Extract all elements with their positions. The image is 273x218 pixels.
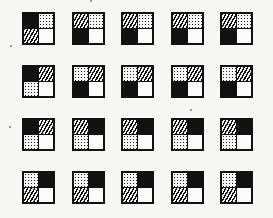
white-quadrant bbox=[237, 29, 251, 43]
dotted-quadrant bbox=[237, 14, 251, 28]
white-quadrant bbox=[237, 135, 251, 149]
dotted-quadrant bbox=[123, 67, 137, 81]
hatched-quadrant bbox=[123, 120, 137, 134]
black-quadrant bbox=[138, 120, 152, 134]
pattern-tile-r1-c3 bbox=[121, 12, 154, 45]
hatched-quadrant bbox=[222, 188, 236, 202]
pattern-grid bbox=[0, 0, 273, 218]
dotted-quadrant bbox=[222, 67, 236, 81]
black-quadrant bbox=[222, 29, 236, 43]
white-quadrant bbox=[138, 135, 152, 149]
dotted-quadrant bbox=[24, 173, 38, 187]
white-quadrant bbox=[89, 188, 103, 202]
pattern-tile-r3-c5 bbox=[220, 118, 253, 151]
dotted-quadrant bbox=[222, 173, 236, 187]
dotted-quadrant bbox=[173, 173, 187, 187]
dotted-quadrant bbox=[188, 14, 202, 28]
dotted-quadrant bbox=[39, 14, 53, 28]
stray-mark bbox=[190, 109, 192, 111]
hatched-quadrant bbox=[138, 67, 152, 81]
hatched-quadrant bbox=[173, 188, 187, 202]
stray-mark bbox=[9, 126, 11, 128]
pattern-tile-r1-c2 bbox=[72, 12, 105, 45]
dotted-quadrant bbox=[74, 173, 88, 187]
white-quadrant bbox=[39, 135, 53, 149]
black-quadrant bbox=[173, 82, 187, 96]
pattern-tile-r2-c3 bbox=[121, 65, 154, 98]
hatched-quadrant bbox=[39, 120, 53, 134]
hatched-quadrant bbox=[24, 29, 38, 43]
pattern-tile-r2-c2 bbox=[72, 65, 105, 98]
white-quadrant bbox=[188, 29, 202, 43]
black-quadrant bbox=[89, 173, 103, 187]
black-quadrant bbox=[188, 120, 202, 134]
pattern-tile-r3-c4 bbox=[171, 118, 204, 151]
dotted-quadrant bbox=[89, 14, 103, 28]
dotted-quadrant bbox=[74, 67, 88, 81]
hatched-quadrant bbox=[74, 14, 88, 28]
stray-mark bbox=[90, 0, 92, 2]
hatched-quadrant bbox=[74, 188, 88, 202]
black-quadrant bbox=[237, 173, 251, 187]
black-quadrant bbox=[39, 173, 53, 187]
black-quadrant bbox=[123, 29, 137, 43]
hatched-quadrant bbox=[123, 14, 137, 28]
pattern-tile-r2-c5 bbox=[220, 65, 253, 98]
white-quadrant bbox=[39, 188, 53, 202]
pattern-tile-r4-c5 bbox=[220, 171, 253, 204]
hatched-quadrant bbox=[39, 67, 53, 81]
black-quadrant bbox=[74, 29, 88, 43]
pattern-tile-r2-c4 bbox=[171, 65, 204, 98]
white-quadrant bbox=[138, 29, 152, 43]
hatched-quadrant bbox=[173, 120, 187, 134]
white-quadrant bbox=[237, 188, 251, 202]
pattern-tile-r1-c4 bbox=[171, 12, 204, 45]
hatched-quadrant bbox=[89, 67, 103, 81]
white-quadrant bbox=[39, 82, 53, 96]
white-quadrant bbox=[89, 29, 103, 43]
stray-mark bbox=[10, 45, 12, 47]
dotted-quadrant bbox=[173, 135, 187, 149]
white-quadrant bbox=[89, 135, 103, 149]
pattern-tile-r4-c1 bbox=[22, 171, 55, 204]
hatched-quadrant bbox=[222, 14, 236, 28]
hatched-quadrant bbox=[188, 67, 202, 81]
pattern-tile-r1-c5 bbox=[220, 12, 253, 45]
white-quadrant bbox=[138, 82, 152, 96]
dotted-quadrant bbox=[123, 173, 137, 187]
hatched-quadrant bbox=[173, 14, 187, 28]
white-quadrant bbox=[138, 188, 152, 202]
dotted-quadrant bbox=[173, 67, 187, 81]
white-quadrant bbox=[188, 135, 202, 149]
pattern-tile-r2-c1 bbox=[22, 65, 55, 98]
pattern-tile-r4-c3 bbox=[121, 171, 154, 204]
pattern-tile-r4-c4 bbox=[171, 171, 204, 204]
dotted-quadrant bbox=[24, 135, 38, 149]
white-quadrant bbox=[188, 188, 202, 202]
black-quadrant bbox=[24, 67, 38, 81]
black-quadrant bbox=[89, 120, 103, 134]
dotted-quadrant bbox=[138, 14, 152, 28]
pattern-tile-r3-c3 bbox=[121, 118, 154, 151]
black-quadrant bbox=[188, 173, 202, 187]
pattern-tile-r4-c2 bbox=[72, 171, 105, 204]
black-quadrant bbox=[222, 82, 236, 96]
pattern-tile-r3-c1 bbox=[22, 118, 55, 151]
white-quadrant bbox=[237, 82, 251, 96]
hatched-quadrant bbox=[24, 188, 38, 202]
dotted-quadrant bbox=[74, 135, 88, 149]
black-quadrant bbox=[24, 120, 38, 134]
black-quadrant bbox=[24, 14, 38, 28]
black-quadrant bbox=[173, 29, 187, 43]
pattern-tile-r3-c2 bbox=[72, 118, 105, 151]
dotted-quadrant bbox=[123, 135, 137, 149]
black-quadrant bbox=[237, 120, 251, 134]
dotted-quadrant bbox=[222, 135, 236, 149]
white-quadrant bbox=[89, 82, 103, 96]
hatched-quadrant bbox=[222, 120, 236, 134]
black-quadrant bbox=[74, 82, 88, 96]
black-quadrant bbox=[123, 82, 137, 96]
pattern-tile-r1-c1 bbox=[22, 12, 55, 45]
hatched-quadrant bbox=[74, 120, 88, 134]
hatched-quadrant bbox=[237, 67, 251, 81]
